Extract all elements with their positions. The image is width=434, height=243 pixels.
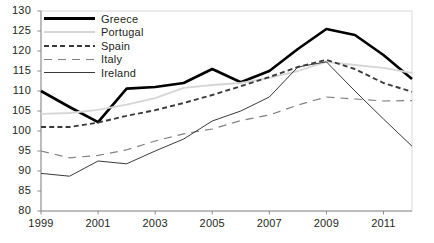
legend-swatch-icon (44, 39, 95, 52)
legend-label: Italy (101, 53, 122, 65)
y-tick-label: 95 (5, 144, 31, 156)
chart-legend: GreecePortugalSpainItalyIreland (44, 12, 144, 80)
legend-swatch-icon (44, 12, 95, 25)
legend-swatch-icon (44, 66, 95, 79)
x-tick-label: 2009 (306, 217, 346, 229)
legend-swatch-icon (44, 53, 95, 66)
y-tick-label: 130 (5, 4, 31, 16)
legend-item-italy[interactable]: Italy (44, 53, 144, 67)
y-tick-label: 100 (5, 124, 31, 136)
y-tick-label: 80 (5, 204, 31, 216)
x-tick-label: 2011 (363, 217, 403, 229)
x-tick-label: 1999 (21, 217, 61, 229)
legend-label: Ireland (101, 67, 136, 79)
y-tick-label: 105 (5, 104, 31, 116)
y-tick-label: 125 (5, 24, 31, 36)
legend-label: Greece (101, 13, 138, 25)
x-tick-label: 2001 (78, 217, 118, 229)
y-tick-label: 120 (5, 44, 31, 56)
legend-item-spain[interactable]: Spain (44, 39, 144, 53)
legend-item-ireland[interactable]: Ireland (44, 66, 144, 80)
legend-swatch-icon (44, 26, 95, 39)
y-tick-label: 110 (5, 84, 31, 96)
line-chart: 13012512011511010510095908580 1999200120… (0, 0, 434, 243)
y-tick-label: 85 (5, 184, 31, 196)
legend-item-portugal[interactable]: Portugal (44, 26, 144, 40)
series-line-italy (41, 97, 412, 158)
x-tick-label: 2007 (249, 217, 289, 229)
legend-label: Spain (101, 40, 130, 52)
legend-label: Portugal (101, 26, 144, 38)
y-tick-label: 115 (5, 64, 31, 76)
x-tick-label: 2003 (135, 217, 175, 229)
legend-item-greece[interactable]: Greece (44, 12, 144, 26)
y-tick-label: 90 (5, 164, 31, 176)
x-tick-label: 2005 (192, 217, 232, 229)
